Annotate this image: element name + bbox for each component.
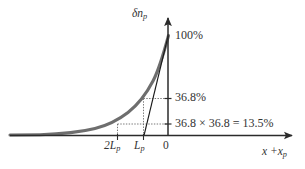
x-axis-label-subscript: p	[283, 150, 287, 159]
exponential-decay-curve	[10, 36, 169, 136]
annotation-13-5-percent: 36.8 × 36.8 = 13.5%	[175, 117, 274, 129]
leader-lines	[118, 99, 168, 136]
x-tick-label-0: 0	[163, 140, 169, 152]
x-tick-label-2lp-text: 2L	[104, 139, 116, 151]
x-axis-label-text: x +x	[262, 145, 283, 157]
x-tick-label-lp: Lp	[134, 140, 145, 154]
annotation-100-percent: 100%	[175, 29, 203, 41]
tangent-line	[144, 36, 168, 136]
x-tick-label-2lp: 2Lp	[104, 140, 120, 154]
exponential-decay-figure: δnp x +xp 100% 36.8% 36.8 × 36.8 = 13.5%…	[0, 0, 305, 169]
x-tick-label-lp-subscript: p	[140, 144, 144, 153]
x-axis-label: x +xp	[262, 146, 287, 160]
x-tick-label-2lp-subscript: p	[116, 144, 120, 153]
annotation-36-8-percent: 36.8%	[175, 91, 206, 103]
plot-canvas	[0, 0, 305, 169]
y-axis-label-subscript: p	[143, 12, 147, 21]
y-axis-label: δnp	[132, 8, 147, 22]
y-axis-label-text: δn	[132, 7, 143, 19]
